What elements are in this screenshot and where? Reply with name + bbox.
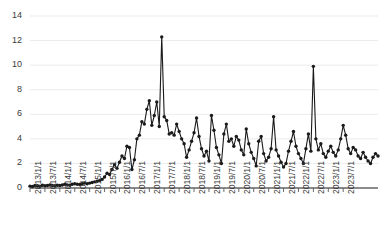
data-point <box>160 35 163 38</box>
data-point <box>118 161 121 164</box>
data-point <box>148 99 151 102</box>
data-point <box>212 129 215 132</box>
data-point <box>242 153 245 156</box>
x-axis-tick-label: 2021/7/1 <box>288 161 297 194</box>
data-point <box>158 125 161 128</box>
data-point <box>133 158 136 161</box>
data-point <box>200 147 203 150</box>
data-point <box>297 152 300 155</box>
data-point <box>329 145 332 148</box>
x-axis-tick-label: 2018/1/1 <box>183 161 192 194</box>
x-axis-tick-label: 2020/7/1 <box>258 161 267 194</box>
data-point <box>185 156 188 159</box>
data-point <box>180 137 183 140</box>
data-point <box>376 154 379 157</box>
x-axis-tick-label: 2016/1/1 <box>123 161 132 194</box>
data-point <box>354 148 357 151</box>
data-point <box>307 132 310 135</box>
data-point <box>210 114 213 117</box>
x-axis-tick-label: 2013/1/1 <box>34 161 43 194</box>
data-point <box>150 124 153 127</box>
data-point <box>366 159 369 162</box>
data-point <box>103 175 106 178</box>
data-point <box>272 115 275 118</box>
data-point <box>252 157 255 160</box>
x-axis-tick-label: 2017/7/1 <box>168 161 177 194</box>
data-point <box>225 122 228 125</box>
data-point <box>356 154 359 157</box>
y-axis-tick-label: 14 <box>0 11 22 20</box>
data-point <box>332 151 335 154</box>
data-point <box>165 119 168 122</box>
data-point <box>138 133 141 136</box>
data-point <box>327 149 330 152</box>
x-axis-tick-label: 2013/7/1 <box>49 161 58 194</box>
chart-canvas <box>0 0 391 251</box>
data-point <box>240 148 243 151</box>
data-point <box>282 165 285 168</box>
x-axis-tick-label: 2020/1/1 <box>243 161 252 194</box>
x-axis-tick-label: 2023/7/1 <box>347 161 356 194</box>
data-point <box>289 140 292 143</box>
data-point <box>309 149 312 152</box>
data-point <box>163 115 166 118</box>
data-point <box>314 137 317 140</box>
data-point <box>346 147 349 150</box>
data-point <box>217 153 220 156</box>
data-point <box>359 157 362 160</box>
data-point <box>292 130 295 133</box>
y-axis-tick-label: 8 <box>0 85 22 94</box>
data-point <box>267 156 270 159</box>
data-point <box>274 148 277 151</box>
data-point <box>187 148 190 151</box>
data-point <box>337 148 340 151</box>
x-axis-tick-label: 2014/7/1 <box>79 161 88 194</box>
x-axis-tick-label: 2021/1/1 <box>273 161 282 194</box>
data-point <box>195 116 198 119</box>
data-point <box>324 156 327 159</box>
data-point <box>322 152 325 155</box>
data-point <box>339 137 342 140</box>
x-axis-tick-label: 2014/1/1 <box>64 161 73 194</box>
data-point <box>170 131 173 134</box>
data-point <box>155 100 158 103</box>
data-point <box>202 154 205 157</box>
x-axis-tick-label: 2015/1/1 <box>94 161 103 194</box>
y-axis-tick-label: 12 <box>0 36 22 45</box>
data-point <box>247 142 250 145</box>
x-axis-tick-label: 2019/1/1 <box>213 161 222 194</box>
data-point <box>269 147 272 150</box>
data-point <box>334 154 337 157</box>
data-point <box>259 135 262 138</box>
data-point <box>145 108 148 111</box>
data-point <box>257 140 260 143</box>
data-point <box>182 142 185 145</box>
data-point <box>153 114 156 117</box>
x-axis-tick-label: 2022/7/1 <box>317 161 326 194</box>
data-point <box>294 145 297 148</box>
data-point <box>342 124 345 127</box>
data-point <box>177 130 180 133</box>
data-point <box>351 146 354 149</box>
x-axis-tick-label: 2017/1/1 <box>153 161 162 194</box>
data-point <box>371 156 374 159</box>
data-point <box>215 146 218 149</box>
data-point <box>344 133 347 136</box>
y-axis-tick-label: 4 <box>0 134 22 143</box>
data-point <box>175 122 178 125</box>
data-point <box>374 152 377 155</box>
x-axis-tick-label: 2023/1/1 <box>332 161 341 194</box>
data-point <box>277 154 280 157</box>
data-point <box>205 149 208 152</box>
data-point <box>312 65 315 68</box>
data-point <box>192 131 195 134</box>
y-axis-tick-label: 10 <box>0 60 22 69</box>
x-axis-tick-label: 2019/7/1 <box>228 161 237 194</box>
y-axis-tick-label: 2 <box>0 158 22 167</box>
data-point <box>222 132 225 135</box>
data-point <box>235 135 238 138</box>
data-point <box>349 152 352 155</box>
data-point <box>250 151 253 154</box>
data-point <box>361 151 364 154</box>
data-point <box>140 120 143 123</box>
